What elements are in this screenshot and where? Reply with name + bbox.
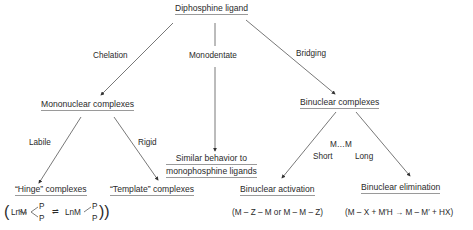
node-similar-behavior: Similar behavior to monophosphine ligand… [166,153,257,179]
right-complex: LnM [65,208,81,218]
edge-label-monodentate: Monodentate [189,51,237,61]
p-top: P [39,202,44,212]
edge-label-labile: Labile [29,138,51,148]
paren-open: ( [4,204,9,220]
edge-label-short: Short [313,152,333,162]
edge-label-long: Long [355,152,373,162]
similar-line-1: Similar behavior to [166,153,257,165]
node-binuclear-activation: Binuclear activation [240,184,315,196]
edge-rigid [114,117,158,180]
paren-close: )) [99,204,110,220]
formula-hinge-equilibrium: ( LnM P P ⇌ LnM P P )) [4,202,114,224]
left-complex: LnM [11,208,27,218]
node-binuclear-complexes: Binuclear complexes [300,97,379,109]
edge-long [356,112,410,176]
p-right-bottom: P [92,214,97,224]
edge-labile [39,117,81,183]
edge-label-chelation: Chelation [93,51,128,61]
node-template-complexes: “Template” complexes [110,184,194,196]
equilibrium-arrow-icon: ⇌ [52,207,59,217]
node-mononuclear-complexes: Mononuclear complexes [41,99,134,111]
similar-line-2: monophosphine ligands [166,166,257,178]
node-hinge-complexes: “Hinge” complexes [15,184,87,196]
formula-binuclear-elimination: (M – X + M′H → M – M′ + HX) [345,208,453,218]
node-binuclear-elimination: Binuclear elimination [361,182,440,194]
edge-label-bridging: Bridging [296,49,326,59]
p-bottom: P [39,214,44,224]
edge-label-mm: M…M [330,140,352,150]
edge-short [282,112,336,178]
edge-label-rigid: Rigid [138,138,157,148]
p-right-top: P [92,202,97,212]
root-node-diphosphine-ligand: Diphosphine ligand [175,3,248,15]
formula-binuclear-activation: (M – Z – M or M – M – Z) [232,208,323,218]
